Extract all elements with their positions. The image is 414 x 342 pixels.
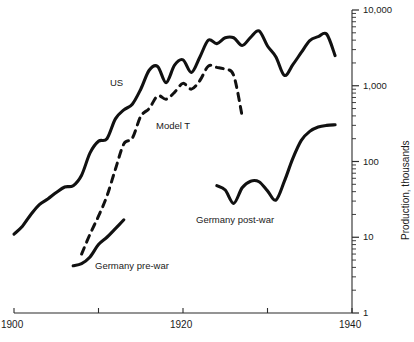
chart-series-group [14,31,335,266]
series-line-us [14,31,335,234]
chart-plot-area [0,0,414,342]
y-tick-label: 10,000 [363,5,392,15]
series-label-us: US [110,78,123,88]
y-axis-ticks [352,10,359,313]
series-label-model-t: Model T [156,121,190,131]
x-axis-ticks [14,308,352,313]
series-line-germany-post-war [217,125,335,204]
series-label-germany-post-war: Germany post-war [196,215,274,225]
x-tick-label: 1940 [339,320,361,330]
series-line-germany-pre-war [73,220,124,266]
y-tick-label: 100 [363,157,379,167]
y-tick-label: 10 [363,232,374,242]
x-tick-label: 1920 [170,320,192,330]
series-label-germany-pre-war: Germany pre-war [95,261,169,271]
y-tick-label: 1 [363,308,368,318]
chart-container: 190019201940 1101001,00010,000 Productio… [0,0,414,342]
x-tick-label: 1900 [1,320,23,330]
series-line-model-t [82,65,243,254]
chart-axes [14,10,352,313]
y-tick-label: 1,000 [363,81,387,91]
y-axis-title: Production, thousands [400,140,411,240]
